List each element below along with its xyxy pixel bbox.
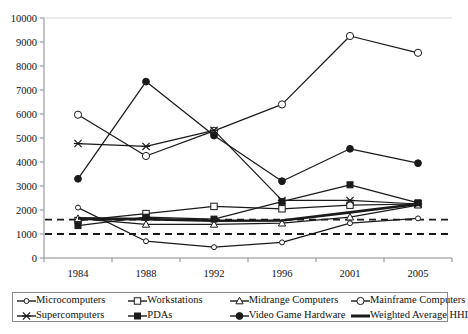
chart-legend: Microcomputers Workstations Midrange Com… <box>12 292 448 322</box>
marker-thick-line-icon <box>351 310 370 322</box>
y-axis-tick-label: 1000 <box>16 229 37 240</box>
legend-item-supercomputers[interactable]: Supercomputers <box>13 308 128 323</box>
legend-item-mainframe-computers[interactable]: Mainframe Computers <box>351 293 447 308</box>
x-axis-tick-label: 2005 <box>408 268 429 279</box>
y-axis-tick-label: 10000 <box>11 13 37 24</box>
line-chart-svg: 0100020003000400050006000700080009000100… <box>0 0 462 290</box>
y-axis-tick-label: 2000 <box>16 205 37 216</box>
x-axis-tick-label: 1988 <box>136 268 157 279</box>
legend-label: Midrange Computers <box>249 295 339 306</box>
legend-item-midrange-computers[interactable]: Midrange Computers <box>230 293 351 308</box>
series-video-game-hardware <box>75 78 422 184</box>
x-axis-tick-label: 2001 <box>340 268 361 279</box>
legend-item-weighted-average-hhi[interactable]: Weighted Average HHI <box>351 308 447 323</box>
chart-plot-container: 0100020003000400050006000700080009000100… <box>0 0 462 290</box>
marker-square-filled-icon <box>128 310 147 322</box>
legend-label: Mainframe Computers <box>370 295 465 306</box>
y-axis-tick-label: 4000 <box>16 157 37 168</box>
legend-label: Supercomputers <box>36 310 104 321</box>
y-axis-tick-label: 8000 <box>16 61 37 72</box>
legend-item-video-game-hardware[interactable]: Video Game Hardware <box>230 308 351 323</box>
legend-item-workstations[interactable]: Workstations <box>128 293 229 308</box>
series-microcomputers <box>76 205 421 250</box>
marker-square-open-icon <box>128 295 147 307</box>
marker-triangle-open-icon <box>230 295 249 307</box>
legend-row-1: Microcomputers Workstations Midrange Com… <box>13 293 447 308</box>
legend-row-2: Supercomputers PDAs Video Game Hardware … <box>13 308 447 323</box>
legend-label: PDAs <box>147 310 172 321</box>
legend-label: Workstations <box>147 295 202 306</box>
series-mainframe-computers <box>74 32 421 159</box>
marker-circle-filled-icon <box>230 310 249 322</box>
marker-circle-open-icon <box>351 295 370 307</box>
y-axis-tick-label: 9000 <box>16 37 37 48</box>
x-axis-tick-label: 1992 <box>204 268 225 279</box>
legend-label: Video Game Hardware <box>249 310 346 321</box>
y-axis-tick-label: 6000 <box>16 109 37 120</box>
x-axis-tick-label: 1996 <box>272 268 293 279</box>
y-axis-tick-label: 5000 <box>16 133 37 144</box>
series-supercomputers <box>74 127 422 208</box>
series-weighted-average-hhi <box>78 204 418 221</box>
y-axis-tick-label: 3000 <box>16 181 37 192</box>
marker-circle-small-open-icon <box>17 295 36 307</box>
legend-item-pdas[interactable]: PDAs <box>128 308 229 323</box>
legend-label: Microcomputers <box>36 295 105 306</box>
legend-item-microcomputers[interactable]: Microcomputers <box>13 293 128 308</box>
x-axis-tick-label: 1984 <box>68 268 90 279</box>
y-axis-tick-label: 7000 <box>16 85 37 96</box>
marker-star-x-icon <box>17 310 36 322</box>
legend-label: Weighted Average HHI <box>370 310 468 321</box>
y-axis-tick-label: 0 <box>32 253 37 264</box>
